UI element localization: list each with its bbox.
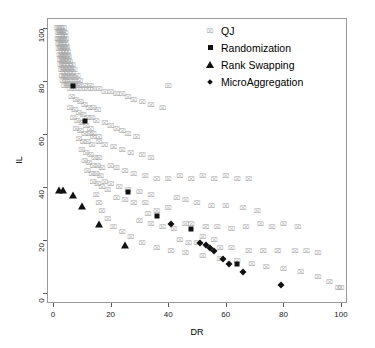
legend-item-label: Randomization (221, 42, 291, 54)
y-tick-label: 0 (37, 293, 46, 309)
y-tick-label: 40 (37, 187, 46, 203)
y-tick-label: 100 (37, 28, 46, 44)
legend-item-rank-swapping: Rank Swapping (199, 56, 349, 73)
x-tick-mark (283, 303, 284, 307)
x-tick-label: 40 (153, 310, 183, 319)
y-tick-label: 60 (37, 134, 46, 150)
legend-item-randomization: Randomization (199, 39, 349, 56)
x-tick-label: 60 (211, 310, 241, 319)
x-tick-mark (226, 303, 227, 307)
legend-item-label: Rank Swapping (221, 59, 295, 71)
x-tick-mark (341, 303, 342, 307)
scatter-plot: ⌧⌧⌧⌧⌧⌧⌧⌧⌧⌧⌧⌧⌧⌧⌧⌧⌧⌧⌧⌧⌧⌧⌧⌧⌧⌧⌧⌧⌧⌧⌧⌧⌧⌧⌧⌧⌧⌧⌧⌧… (0, 0, 375, 348)
legend-marker-icon (199, 56, 221, 73)
legend-item-label: MicroAggregation (221, 76, 303, 88)
x-tick-label: 0 (38, 310, 68, 319)
legend-marker-icon: ⌧ (199, 22, 221, 39)
legend: ⌧QJRandomizationRank SwappingMicroAggreg… (199, 22, 349, 90)
data-point-qj: ⌧ (207, 28, 214, 34)
x-tick-mark (53, 303, 54, 307)
data-point-microaggregation (207, 79, 213, 85)
x-tick-label: 20 (96, 310, 126, 319)
y-axis-title: IL (14, 140, 24, 180)
x-tick-label: 100 (326, 310, 356, 319)
legend-item-microaggregation: MicroAggregation (199, 73, 349, 90)
y-tick-label: 20 (37, 240, 46, 256)
x-tick-mark (168, 303, 169, 307)
x-tick-mark (111, 303, 112, 307)
y-tick-label: 80 (37, 81, 46, 97)
x-axis-title: DR (177, 327, 217, 337)
legend-item-label: QJ (221, 25, 234, 37)
data-point-rank-swapping (206, 61, 214, 68)
x-tick-label: 80 (268, 310, 298, 319)
legend-marker-icon (199, 73, 221, 90)
legend-item-qj: ⌧QJ (199, 22, 349, 39)
data-point-randomization (208, 45, 213, 50)
legend-marker-icon (199, 39, 221, 56)
